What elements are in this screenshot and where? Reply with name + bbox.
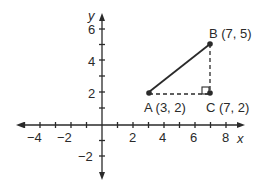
x-axis-right-arrow-icon <box>237 122 245 128</box>
x-tick-label: −2 <box>57 131 72 144</box>
y-axis-down-arrow-icon <box>99 172 105 180</box>
x-tick-label: 8 <box>222 131 229 144</box>
x-tick-label: 4 <box>159 131 166 144</box>
y-tick-label: 2 <box>88 87 95 100</box>
y-axis-label: y <box>88 9 95 22</box>
x-tick-label: −4 <box>27 131 42 144</box>
x-axis-label: x <box>237 132 244 145</box>
point-label-C: C (7, 2) <box>206 101 249 114</box>
point-A <box>146 90 152 96</box>
x-axis-left-arrow-icon <box>16 122 24 128</box>
y-axis <box>99 13 105 180</box>
y-tick-label: 4 <box>88 55 95 68</box>
x-tick-label: 2 <box>129 131 136 144</box>
coordinate-plane-diagram: y x −4 −2 2 4 6 8 6 4 2 −2 A (3, 2) B (7… <box>0 0 261 184</box>
y-tick-label: −2 <box>78 150 93 163</box>
point-B <box>207 41 213 47</box>
y-tick-label: 6 <box>88 23 95 36</box>
point-label-A: A (3, 2) <box>144 101 186 114</box>
point-C <box>207 90 213 96</box>
x-tick-label: 6 <box>190 131 197 144</box>
segment-AB <box>149 44 210 92</box>
point-label-B: B (7, 5) <box>209 27 252 40</box>
y-axis-up-arrow-icon <box>99 13 105 21</box>
x-axis <box>16 122 245 128</box>
triangle-ABC <box>149 44 210 94</box>
